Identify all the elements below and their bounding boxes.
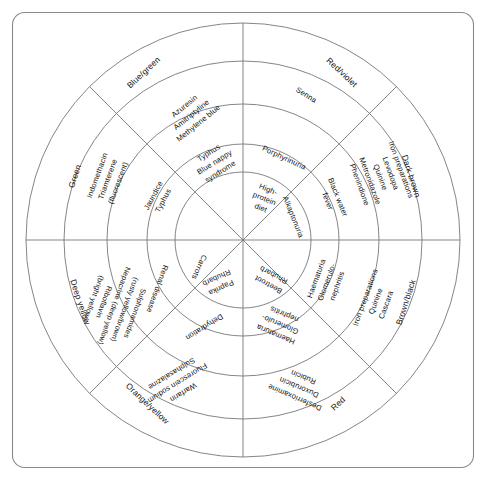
urine-colour-wheel-figure: Blue/green Red/violet Dark brown Brown/b… (0, 0, 486, 481)
wheel-diagram: Blue/green Red/violet Dark brown Brown/b… (0, 0, 486, 481)
